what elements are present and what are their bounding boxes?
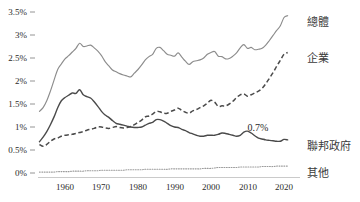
- y-tick-label: 3%: [15, 30, 28, 40]
- x-tick-label: 1990: [166, 182, 185, 192]
- y-axis-group: 3.5% 3% 2.5% 2% 1.5% 1% 0.5% 0%: [8, 7, 35, 178]
- x-tick-label: 2020: [275, 182, 294, 192]
- x-tick-label: 2010: [239, 182, 258, 192]
- x-tick-label: 1980: [129, 182, 148, 192]
- series-line-federal: [39, 90, 287, 142]
- chart-container: 3.5% 3% 2.5% 2% 1.5% 1% 0.5% 0%: [0, 0, 360, 202]
- series-labels: 總體 企業 聯邦政府 其他: [307, 15, 351, 180]
- y-tick-label: 0.5%: [8, 145, 27, 155]
- x-tick-label: 1970: [92, 182, 111, 192]
- series-label-business: 企業: [307, 51, 329, 65]
- series-line-other: [39, 166, 287, 172]
- y-tick-label: 3.5%: [8, 7, 27, 17]
- series-line-total: [39, 16, 287, 112]
- series-paths: [39, 16, 287, 172]
- series-label-federal: 聯邦政府: [307, 139, 351, 153]
- series-label-other: 其他: [307, 167, 329, 180]
- y-tick-label: 1.5%: [8, 99, 27, 109]
- line-chart: 3.5% 3% 2.5% 2% 1.5% 1% 0.5% 0%: [0, 0, 360, 202]
- x-tick-labels: 1960 1970 1980 1990 2000 2010 2020: [56, 182, 294, 192]
- y-tick-labels: 3.5% 3% 2.5% 2% 1.5% 1% 0.5% 0%: [8, 7, 27, 178]
- y-tick-label: 2.5%: [8, 53, 27, 63]
- series-label-total: 總體: [307, 15, 329, 29]
- y-tick-label: 2%: [15, 76, 28, 86]
- x-tick-label: 1960: [56, 182, 75, 192]
- x-tick-label: 2000: [202, 182, 221, 192]
- y-tick-label: 0%: [15, 168, 28, 178]
- y-tick-marks: [30, 12, 35, 173]
- y-tick-label: 1%: [15, 122, 28, 132]
- annotation-federal-value: 0.7%: [248, 122, 269, 133]
